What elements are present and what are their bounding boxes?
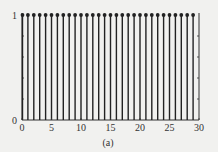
stem-marker [185,13,189,17]
stem-marker [191,13,195,17]
x-tick-label: 5 [49,122,54,133]
stem-marker [109,13,113,17]
stem-marker [120,13,124,17]
stem-marker [174,13,178,17]
stem-plot: 051015202530 01 (a) [0,0,218,152]
y-tick-label: 1 [12,10,17,21]
stem-marker [115,13,119,17]
stem-marker [21,13,25,17]
stem-marker [126,13,130,17]
x-tick-label: 10 [76,122,86,133]
stem-marker [38,13,42,17]
x-tick-label: 25 [165,122,175,133]
x-tick-label: 0 [20,122,25,133]
figure-caption: (a) [102,137,113,149]
x-tick-label: 20 [135,122,145,133]
stem-marker [67,13,71,17]
stem-marker [162,13,166,17]
x-tick-label: 15 [106,122,116,133]
x-tick-label: 30 [194,122,204,133]
stem-marker [138,13,142,17]
stem-marker [61,13,65,17]
stem-marker [179,13,183,17]
stem-marker [91,13,95,17]
stem-marker [150,13,154,17]
stem-marker [56,13,60,17]
stem-marker [168,13,172,17]
stem-marker [44,13,48,17]
stem-series [21,13,195,120]
stem-marker [32,13,36,17]
stem-marker [103,13,107,17]
stem-marker [156,13,160,17]
stem-marker [144,13,148,17]
y-axis-ticks: 01 [12,10,17,126]
y-tick-label: 0 [12,115,17,126]
stem-marker [132,13,136,17]
stem-marker [79,13,83,17]
stem-marker [26,13,30,17]
stem-marker [73,13,77,17]
stem-marker [97,13,101,17]
stem-marker [50,13,54,17]
stem-marker [85,13,89,17]
